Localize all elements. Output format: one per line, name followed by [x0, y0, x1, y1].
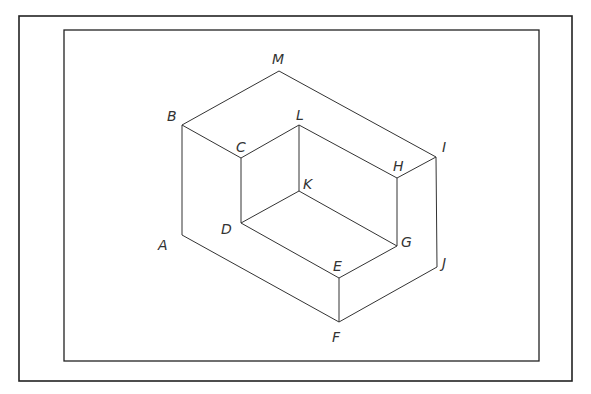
edge-CL: [241, 125, 299, 158]
label-I: I: [442, 139, 446, 155]
label-M: M: [272, 51, 284, 67]
label-E: E: [333, 258, 342, 274]
edge-DK: [241, 191, 299, 223]
label-J: J: [439, 255, 446, 271]
label-H: H: [393, 158, 404, 174]
label-A: A: [157, 237, 168, 253]
label-F: F: [332, 329, 341, 345]
edge-IJ: [436, 157, 437, 267]
label-D: D: [221, 221, 232, 237]
edge-BC: [182, 125, 241, 158]
edge-KG: [299, 191, 397, 246]
label-C: C: [236, 139, 246, 155]
label-G: G: [401, 234, 412, 250]
label-B: B: [167, 108, 177, 124]
block-edges: [182, 71, 437, 322]
edge-FJ: [339, 267, 437, 322]
label-L: L: [296, 107, 304, 123]
label-K: K: [303, 176, 314, 192]
edge-DE: [241, 223, 339, 278]
inner-frame: [64, 30, 539, 361]
outer-frame: [19, 16, 572, 381]
edge-BM: [182, 71, 279, 125]
edge-EG: [339, 246, 397, 278]
edge-AF: [182, 235, 339, 322]
edge-LH: [299, 125, 397, 178]
drawing-canvas: M B C L H I K D A E G J F: [0, 0, 591, 394]
